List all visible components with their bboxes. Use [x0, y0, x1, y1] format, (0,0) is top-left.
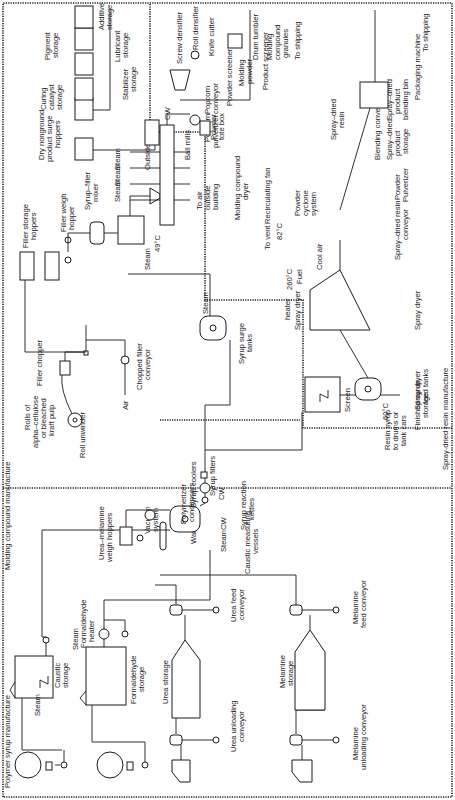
caustic-measuring-vessel [160, 522, 166, 550]
popcorn-pulverizer-icon [190, 115, 200, 125]
label-temp-49: 49°C [153, 235, 162, 252]
label-cw-1: CW [219, 517, 228, 530]
packaging-machine [360, 82, 388, 108]
label-spray-conveyor-1: conveyor [401, 209, 410, 240]
label-spray-dryer-1: Spray dryer [413, 290, 422, 330]
formaldehyde-heater-icon [99, 629, 109, 639]
filler-chopper-icon [60, 361, 70, 375]
label-temp-60: 60°C [381, 403, 390, 420]
polymerizer-condenser-icon [145, 510, 155, 520]
ball-mill [145, 120, 159, 145]
dryer-belt [160, 125, 174, 225]
label-filler-chopper: Filler chopper [35, 340, 44, 386]
urea-unloading-hopper [172, 760, 190, 782]
label-mc-granules-2: granules [281, 29, 290, 58]
process-flow-diagram: Polymer syrup manufacture Molding compou… [0, 0, 455, 800]
label-roll-unwinder: Roll unwinder [78, 412, 87, 458]
label-melamine-feed-1: feed conveyor [359, 580, 368, 628]
melamine-storage-silo [295, 630, 325, 710]
label-powder-pulverizer-1: Pulverizer [401, 168, 410, 202]
label-sd-storage-2: storage [401, 129, 410, 154]
label-urea-feed-1: conveyor [237, 589, 246, 620]
label-syrup-coolers: Syrup coolers [189, 461, 198, 508]
label-chopped-filler-1: conveyor [143, 349, 152, 380]
section-title-molding-compound: Molding compound manufacture [3, 462, 12, 571]
syrup-filter-icon [201, 472, 207, 478]
label-spray-heater-0: Spray dryer [293, 290, 302, 330]
label-urea-melamine-1: weigh hoppers [105, 512, 114, 563]
label-formaldehyde-storage-1: storage [137, 667, 146, 692]
label-to-shipping-1: To shipping [293, 22, 302, 60]
label-dry-nonground-2: hoppers [53, 120, 62, 148]
label-caustic-storage-1: storage [61, 663, 70, 688]
label-cool-air: Cool air [315, 243, 324, 270]
label-syrup-filler-1: mixer [91, 183, 100, 202]
label-screen-1: Screen [343, 388, 352, 412]
syrup-reaction-area: Water Caustic measuring vessels Urea–mel… [97, 405, 260, 600]
railcar-tank-icon [15, 752, 41, 778]
label-urea-unloading-1: conveyor [237, 711, 246, 742]
formaldehyde-railcar [92, 700, 148, 778]
label-formaldehyde-heater-1: heater [87, 620, 96, 642]
filler-weigh-hopper [90, 222, 104, 244]
rotated-diagram: Polymer syrup manufacture Molding compou… [3, 3, 452, 797]
label-steam-2: Steam [71, 628, 80, 650]
additive-storage-bank: Dry nonground product surge hoppers Curi… [37, 3, 155, 162]
label-urea-storage: Urea storage [161, 660, 170, 704]
label-syrup-reaction-1: kettles [247, 498, 256, 520]
label-molding-powder-1: powder [245, 59, 254, 84]
label-drum-tumbler: Drum tumbler [251, 14, 260, 60]
label-steam-5: Steam [201, 292, 210, 314]
label-melamine-unloading-1: unloading conveyor [359, 704, 368, 770]
label-spray-dried-resin-1: resin [337, 112, 346, 128]
label-powder-screener: Powder screener [225, 48, 234, 106]
label-syrup-filters: Syrup filters [208, 456, 217, 496]
label-steam-3: Steam [219, 530, 228, 552]
section-title-spray-dried-resin: Spray-dried resin manufacture [441, 368, 450, 470]
label-spray-heater-1: heater [283, 298, 292, 320]
syrup-surge-tanks: Steam Syrup surge tanks [200, 292, 254, 405]
label-product-screener: Product screener [261, 32, 270, 90]
label-roll-densifier: Roll densifier [191, 6, 200, 50]
label-caustic-measuring-1: vessels [251, 528, 260, 554]
label-knife-cutter: Knife cutter [207, 17, 216, 56]
finished-syrup-tank [305, 377, 340, 412]
label-cw-2: CW [217, 487, 226, 500]
urea-handling: Urea unloading conveyor Urea storage Ure… [155, 585, 246, 782]
label-syrup-surge-1: tanks [245, 334, 254, 352]
screen-icon [150, 188, 160, 204]
label-ball-mills: Ball mills [183, 130, 192, 160]
label-pigment-1: storage [51, 33, 60, 58]
pump-icon [61, 762, 67, 768]
label-blending-bin-2: blending bin [401, 79, 410, 120]
screw-densifier [170, 70, 190, 90]
label-to-air-2: building [211, 184, 220, 210]
label-cyclone-2: system [309, 192, 318, 216]
label-fuel: Fuel [295, 269, 304, 284]
label-lubricant-1: storage [121, 33, 130, 58]
label-to-shipping-2: To shipping [421, 14, 430, 52]
label-air: Air [121, 400, 130, 410]
label-temp-82: 82°C [275, 223, 284, 240]
spray-dryer-area: Spray dryer feed tanks 60°C Spray dryer … [263, 10, 430, 420]
melamine-unloading-hopper [292, 760, 312, 782]
label-resin-syrup-2: tank cars [399, 415, 408, 446]
label-melamine-storage-1: storage [286, 661, 295, 686]
label-stabilizer-1: storage [129, 67, 138, 92]
filler-preparation: Roll unwinder Rolls of alpha–cellulose o… [23, 280, 152, 458]
section-title-polymer-syrup: Polymer syrup manufacture [3, 695, 12, 788]
label-recirculating-fan: Recirculating fan [263, 167, 272, 224]
drum-tumbler [228, 34, 242, 48]
label-powder-tote-1: tote box [217, 113, 226, 140]
filler-storage-hopper [45, 252, 59, 280]
diagram-canvas: Polymer syrup manufacture Molding compou… [0, 0, 455, 800]
label-rolls-3: kraft pulp [47, 405, 56, 436]
label-filler-weigh-1: hopper [67, 206, 76, 230]
finished-syrup-storage: Screen Resin syrup to drums or tank cars… [205, 377, 430, 450]
label-mc-dryer-1: dryer [241, 182, 250, 200]
label-steam-8: Steam [113, 148, 122, 170]
urea-storage-silo [172, 640, 200, 718]
filler-storage-hopper [20, 252, 34, 280]
label-popcorn-conveyor-1: conveyor [211, 83, 220, 114]
weigh-hopper [120, 527, 132, 545]
